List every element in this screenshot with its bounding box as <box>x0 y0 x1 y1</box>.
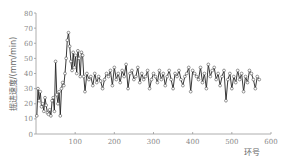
y-axis-title: 掘进速度/(mm/min) <box>8 37 18 111</box>
data-point-marker <box>211 69 214 72</box>
data-point-marker <box>66 39 69 42</box>
y-tick-label: 70 <box>24 25 33 33</box>
data-point-marker <box>45 104 48 107</box>
data-point-marker <box>205 87 208 90</box>
data-point-marker <box>152 72 155 75</box>
data-point-marker <box>230 87 233 90</box>
data-point-marker <box>203 72 206 75</box>
data-point-marker <box>215 78 218 81</box>
data-point-marker <box>74 54 77 57</box>
y-tick-label: 60 <box>24 40 33 48</box>
data-point-marker <box>49 114 52 117</box>
data-point-marker <box>119 81 122 84</box>
data-point-marker <box>183 75 186 78</box>
data-point-marker <box>187 66 190 69</box>
data-point-marker <box>59 114 62 117</box>
data-point-marker <box>113 66 116 69</box>
data-point-marker <box>213 66 216 69</box>
data-point-marker <box>223 69 226 72</box>
data-point-marker <box>156 81 159 84</box>
data-point-marker <box>80 51 83 54</box>
x-tick-label: 300 <box>147 138 160 146</box>
x-axis-title: 环号 <box>244 148 260 157</box>
data-point-marker <box>77 49 80 52</box>
data-point-marker <box>221 75 224 78</box>
data-point-marker <box>209 75 212 78</box>
x-tick-label: 400 <box>186 138 199 146</box>
data-point-marker <box>55 93 58 96</box>
data-point-marker <box>95 81 98 84</box>
data-point-marker <box>201 81 204 84</box>
y-tick-label: 30 <box>24 85 33 93</box>
data-point-marker <box>232 75 235 78</box>
data-point-marker <box>136 66 139 69</box>
data-point-marker <box>162 72 165 75</box>
data-point-marker <box>68 45 71 48</box>
data-point-marker <box>86 72 89 75</box>
data-point-marker <box>148 87 151 90</box>
data-point-marker <box>105 72 108 75</box>
data-point-marker <box>58 90 61 93</box>
data-point-marker <box>252 78 255 81</box>
data-point-marker <box>48 108 51 111</box>
y-tick-label: 10 <box>24 115 33 123</box>
data-point-marker <box>65 57 68 60</box>
data-point-marker <box>41 102 44 105</box>
data-point-marker <box>93 72 96 75</box>
data-point-marker <box>69 60 72 63</box>
data-point-marker <box>79 75 82 78</box>
data-point-marker <box>109 69 112 72</box>
data-point-marker <box>37 87 40 90</box>
data-point-marker <box>53 110 56 113</box>
data-point-marker <box>39 90 42 93</box>
data-point-marker <box>219 84 222 87</box>
data-point-marker <box>35 114 38 117</box>
data-point-marker <box>246 81 249 84</box>
data-point-marker <box>60 87 63 90</box>
data-point-marker <box>42 110 45 113</box>
data-point-marker <box>193 72 196 75</box>
data-point-marker <box>78 57 81 60</box>
data-point-marker <box>71 69 74 72</box>
data-point-marker <box>52 96 55 99</box>
data-point-marker <box>111 84 114 87</box>
data-point-marker <box>228 72 231 75</box>
data-point-marker <box>129 72 132 75</box>
x-tick-label: 600 <box>264 138 277 146</box>
data-point-marker <box>146 69 149 72</box>
data-point-marker <box>115 78 118 81</box>
data-point-marker <box>158 69 161 72</box>
data-point-marker <box>97 75 100 78</box>
data-point-marker <box>240 72 243 75</box>
data-point-marker <box>144 75 147 78</box>
data-point-marker <box>172 87 175 90</box>
data-point-marker <box>150 78 153 81</box>
data-point-marker <box>127 87 130 90</box>
data-point-marker <box>73 66 76 69</box>
data-point-marker <box>174 72 177 75</box>
data-point-marker <box>121 69 124 72</box>
data-point-marker <box>125 63 128 66</box>
data-point-marker <box>44 96 47 99</box>
data-point-marker <box>234 81 237 84</box>
data-point-marker <box>87 78 90 81</box>
data-point-marker <box>142 78 145 81</box>
data-point-marker <box>75 72 78 75</box>
y-tick-label: 0 <box>29 131 33 139</box>
data-point-marker <box>57 102 60 105</box>
data-point-marker <box>181 84 184 87</box>
data-point-marker <box>236 69 239 72</box>
x-tick-label: 200 <box>108 138 121 146</box>
data-point-marker <box>248 69 251 72</box>
data-point-marker <box>140 72 143 75</box>
data-point-marker <box>154 75 157 78</box>
data-point-marker <box>38 99 41 102</box>
data-point-marker <box>103 78 106 81</box>
data-point-marker <box>244 75 247 78</box>
data-point-marker <box>107 75 110 78</box>
data-point-marker <box>197 78 200 81</box>
plot-area <box>35 31 260 117</box>
data-point-marker <box>189 90 192 93</box>
data-point-marker <box>101 87 104 90</box>
y-tick-label: 50 <box>24 55 33 63</box>
